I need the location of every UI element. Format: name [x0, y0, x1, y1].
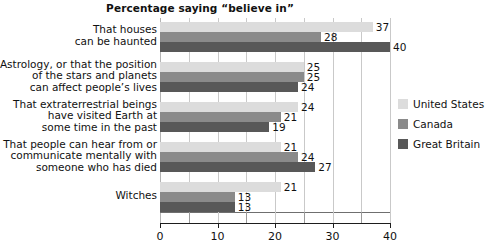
bar — [160, 112, 281, 122]
bar-group: 211313 — [160, 182, 390, 212]
legend: United StatesCanadaGreat Britain — [398, 96, 484, 156]
bar — [160, 152, 298, 162]
legend-swatch-icon — [398, 119, 408, 129]
category-label-line: can affect people’s lives — [0, 82, 157, 94]
bar — [160, 162, 315, 172]
x-tick-minor-15 — [246, 212, 247, 223]
x-tick-minor-25 — [304, 212, 305, 223]
bar-row: 27 — [160, 162, 390, 172]
bar-group: 372840 — [160, 22, 390, 52]
bar-row: 24 — [160, 102, 390, 112]
x-tick-label-30: 30 — [318, 230, 348, 243]
bar — [160, 182, 281, 192]
bar — [160, 32, 321, 42]
bar — [160, 122, 269, 132]
bar-group: 212427 — [160, 142, 390, 172]
legend-swatch-icon — [398, 99, 408, 109]
bar-chart: Percentage saying “believe in” 372840252… — [0, 0, 497, 251]
bar — [160, 202, 235, 212]
category-label: Astrology, or that the positionof the st… — [0, 59, 157, 94]
x-tick-10 — [218, 223, 219, 228]
bar — [160, 102, 298, 112]
bar-value-label: 27 — [315, 161, 331, 173]
x-tick-30 — [333, 223, 334, 228]
plot-area: 372840252524242119212427211313 — [160, 18, 390, 223]
category-label-line: Witches — [0, 190, 157, 202]
chart-title: Percentage saying “believe in” — [0, 2, 400, 14]
legend-item[interactable]: United States — [398, 96, 484, 112]
bar — [160, 42, 390, 52]
legend-label: Canada — [413, 118, 453, 130]
category-label-line: some time in the past — [0, 122, 157, 134]
bar-row: 13 — [160, 202, 390, 212]
legend-label: Great Britain — [413, 138, 480, 150]
x-tick-40 — [390, 223, 391, 228]
bar — [160, 142, 281, 152]
bar — [160, 22, 373, 32]
bar-value-label: 19 — [269, 121, 285, 133]
bar-row: 25 — [160, 72, 390, 82]
bar — [160, 192, 235, 202]
bar-row: 13 — [160, 192, 390, 202]
bar-row: 21 — [160, 182, 390, 192]
bar-group: 252524 — [160, 62, 390, 92]
legend-item[interactable]: Great Britain — [398, 136, 484, 152]
category-label-line: can be haunted — [0, 36, 157, 48]
category-label: That housescan be haunted — [0, 24, 157, 47]
bar — [160, 62, 304, 72]
bar-row: 37 — [160, 22, 390, 32]
legend-item[interactable]: Canada — [398, 116, 484, 132]
bar-group: 242119 — [160, 102, 390, 132]
bar-value-label: 40 — [390, 41, 406, 53]
x-tick-0 — [160, 223, 161, 228]
category-label: Witches — [0, 190, 157, 202]
category-label-line: someone who has died — [0, 162, 157, 174]
bar-row: 24 — [160, 152, 390, 162]
x-tick-label-0: 0 — [145, 230, 175, 243]
bar — [160, 72, 304, 82]
x-tick-minor-5 — [189, 212, 190, 223]
category-label: That people can hear from orcommunicate … — [0, 139, 157, 174]
bar-value-label: 13 — [235, 201, 251, 213]
bar-row: 21 — [160, 142, 390, 152]
bar-row: 24 — [160, 82, 390, 92]
bar-row: 25 — [160, 62, 390, 72]
x-tick-20 — [275, 223, 276, 228]
x-tick-label-10: 10 — [203, 230, 233, 243]
bar-row: 19 — [160, 122, 390, 132]
bar-row: 28 — [160, 32, 390, 42]
bar-row: 40 — [160, 42, 390, 52]
bar-value-label: 24 — [298, 81, 314, 93]
x-tick-label-40: 40 — [375, 230, 405, 243]
category-label: That extraterrestrial beingshave visited… — [0, 99, 157, 134]
bar — [160, 82, 298, 92]
x-tick-label-20: 20 — [260, 230, 290, 243]
legend-swatch-icon — [398, 139, 408, 149]
legend-label: United States — [413, 98, 484, 110]
x-tick-minor-35 — [361, 212, 362, 223]
